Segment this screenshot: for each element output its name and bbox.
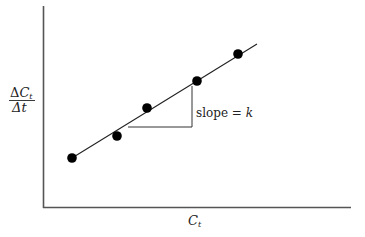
- slope-chart: slope = k ΔCt Δt Ct: [0, 0, 365, 237]
- slope-triangle: [128, 86, 192, 127]
- data-point: [112, 131, 122, 141]
- x-axis-label: Ct: [188, 213, 202, 229]
- svg-text:ΔCt: ΔCt: [10, 85, 33, 101]
- best-fit-line: [72, 44, 257, 158]
- data-point: [67, 153, 77, 163]
- data-point: [192, 76, 202, 86]
- y-axis-label: ΔCt Δt: [9, 85, 35, 115]
- slope-symbol: k: [246, 106, 253, 120]
- data-point: [142, 103, 152, 113]
- svg-text:Δt: Δt: [11, 100, 27, 115]
- data-point: [233, 49, 243, 59]
- slope-annotation: slope = k: [196, 106, 253, 120]
